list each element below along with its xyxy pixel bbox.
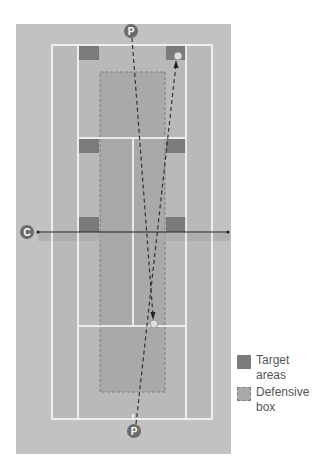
net-post-left [37, 231, 40, 234]
target-area-net-right [166, 217, 186, 232]
legend-label: Target areas [256, 353, 314, 383]
target-area-service-right [166, 139, 186, 153]
target-area-service-left [79, 139, 99, 153]
net-shadow [38, 233, 230, 241]
target-area-net-left [79, 217, 99, 232]
ball-icon [174, 52, 182, 60]
target-area-top-left [79, 46, 99, 60]
legend-label: Defensive box [256, 385, 314, 415]
net-post-right [227, 231, 230, 234]
marker-label: C [23, 227, 30, 238]
ball-icon [150, 320, 158, 328]
target-area-swatch-icon [237, 355, 251, 369]
marker-label: P [131, 426, 138, 437]
defensive-box-swatch-icon [237, 387, 251, 401]
player-marker-bottom: P [127, 424, 141, 438]
player-marker-top: P [124, 24, 138, 38]
coach-marker: C [20, 225, 34, 239]
marker-label: P [128, 26, 135, 37]
